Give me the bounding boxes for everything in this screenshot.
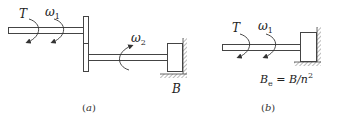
ground-hatch bbox=[160, 74, 187, 78]
torque-label-a: T bbox=[19, 8, 27, 20]
output-shaft bbox=[89, 55, 168, 61]
wall-hatch-b bbox=[317, 27, 321, 62]
equivalent-damper-label: Be = B/n2 bbox=[260, 72, 313, 88]
panel-a bbox=[9, 17, 188, 79]
caption-a: (a) bbox=[82, 103, 96, 113]
caption-b: (b) bbox=[261, 103, 275, 113]
damper-box bbox=[168, 44, 183, 72]
ground-hatch-b bbox=[294, 62, 321, 66]
equivalent-shaft bbox=[223, 45, 301, 51]
input-shaft bbox=[9, 28, 85, 34]
gear-1 bbox=[84, 17, 89, 44]
omega1-label-b: ω1 bbox=[258, 20, 273, 35]
torque-label-b: T bbox=[232, 22, 240, 34]
equivalent-damper-box bbox=[301, 33, 317, 62]
omega1-label-a: ω1 bbox=[45, 6, 60, 21]
wall-hatch bbox=[183, 38, 187, 74]
damper-label-a: B bbox=[172, 83, 181, 95]
omega2-label-a: ω2 bbox=[131, 32, 146, 47]
gear-2 bbox=[84, 44, 89, 72]
